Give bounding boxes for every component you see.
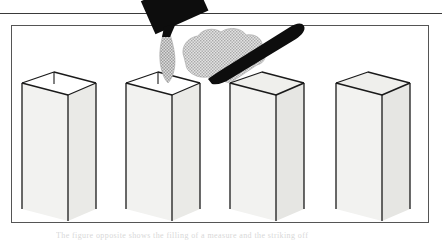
figure-root: The figure opposite shows the filling of… (0, 0, 442, 241)
caption-partial-text: The figure opposite shows the filling of… (56, 231, 396, 240)
figure-frame-border (11, 25, 429, 223)
top-rule-divider (0, 13, 442, 14)
